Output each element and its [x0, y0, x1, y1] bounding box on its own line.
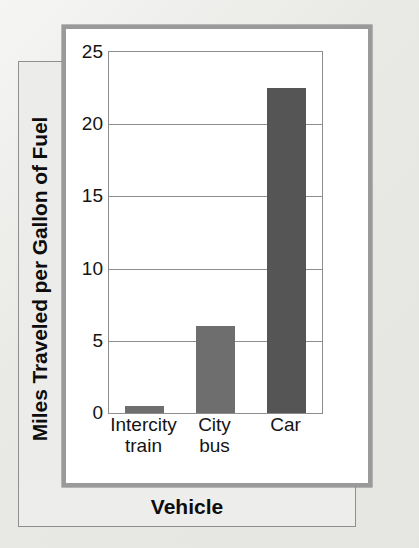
y-axis-tick-label: 10 [82, 258, 103, 280]
y-axis-tick-label: 0 [92, 402, 103, 424]
x-axis-tick-label-line: bus [179, 435, 250, 456]
bar [125, 406, 165, 413]
x-axis-tick-labels: IntercitytrainCitybusCar [108, 414, 321, 480]
y-axis-title-container: Miles Traveled per Gallon of Fuel [18, 61, 62, 497]
x-axis-tick-label: Intercitytrain [108, 414, 179, 457]
plot-area: 0510152025 [108, 51, 323, 414]
x-axis-tick-label: Citybus [179, 414, 250, 457]
y-axis-tick-label: 20 [82, 113, 103, 135]
y-axis-tick-label: 25 [82, 41, 103, 63]
x-axis-title-container: Vehicle [19, 487, 355, 526]
x-axis-tick-label-line: City [179, 414, 250, 435]
y-axis-title: Miles Traveled per Gallon of Fuel [28, 117, 52, 442]
x-axis-tick-label-line: Intercity [108, 414, 179, 435]
y-axis-tick-label: 5 [92, 330, 103, 352]
x-axis-tick-label-line: train [108, 435, 179, 456]
chart-inner: 0510152025 IntercitytrainCitybusCar [66, 29, 368, 483]
x-axis-tick-label: Car [250, 414, 321, 435]
chart-panel: 0510152025 IntercitytrainCitybusCar [62, 25, 372, 487]
y-axis-tick-label: 15 [82, 185, 103, 207]
x-axis-tick-label-line: Car [250, 414, 321, 435]
bar [196, 326, 236, 413]
x-axis-title: Vehicle [151, 495, 223, 519]
bar [267, 88, 307, 413]
